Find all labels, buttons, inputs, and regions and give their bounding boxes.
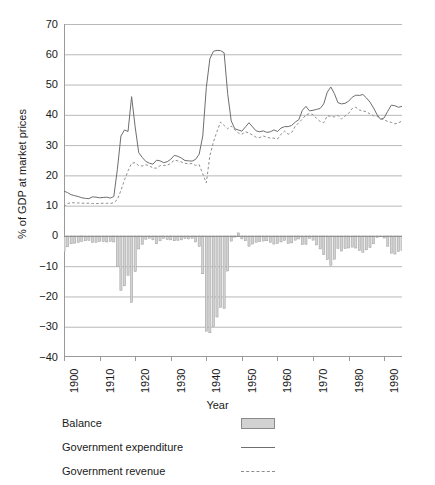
y-axis-tick: 20 [46, 170, 58, 181]
balance-bar [348, 236, 350, 248]
plot-area [64, 24, 402, 357]
balance-bar [326, 236, 328, 260]
balance-bar [66, 236, 68, 247]
balance-bar [155, 236, 157, 244]
y-axis-tick: 10 [46, 200, 58, 211]
y-axis-tick: 50 [46, 79, 58, 90]
x-axis-tick: 1900 [69, 369, 80, 393]
balance-bar [333, 236, 335, 259]
x-axis-tick: 1980 [354, 369, 365, 393]
balance-bar [64, 236, 65, 252]
balance-bar [219, 236, 221, 307]
balance-bar [401, 236, 402, 251]
balance-bar [74, 236, 76, 243]
balance-bar [301, 236, 303, 245]
balance-bar [276, 236, 278, 244]
balance-bar [134, 236, 136, 272]
y-axis-tick: 30 [46, 140, 58, 151]
expenditure-line [64, 50, 402, 198]
legend-item-key [240, 417, 276, 430]
x-axis-tick-mark [100, 357, 101, 361]
balance-bar [319, 236, 321, 249]
balance-bar [340, 236, 342, 251]
y-axis-tick: −10 [39, 261, 58, 272]
legend-item-key [240, 465, 276, 478]
x-axis-tick-mark [64, 357, 65, 361]
chart-figure: 706050403020100−10−20−30−40 % of GDP at … [0, 0, 435, 485]
y-axis-title: % of GDP at market prices [16, 84, 28, 264]
legend-item-key [240, 441, 276, 454]
balance-bar [223, 236, 225, 309]
balance-bar [131, 236, 133, 303]
balance-bar [116, 236, 118, 266]
balance-bar [316, 236, 318, 245]
balance-bar [394, 236, 396, 254]
balance-bar [127, 236, 129, 275]
y-axis-tick-labels: 706050403020100−10−20−30−40 [0, 0, 58, 485]
balance-bar [390, 236, 392, 253]
x-axis-tick: 1990 [389, 369, 400, 393]
x-axis-tick: 1960 [282, 369, 293, 393]
balance-bar [323, 236, 325, 255]
x-axis-tick-mark [206, 357, 207, 361]
chart-legend: BalanceGovernment expenditureGovernment … [62, 411, 392, 483]
balance-bar [70, 236, 72, 244]
x-axis-tick: 1910 [105, 369, 116, 393]
balance-bar [358, 236, 360, 251]
balance-bar [273, 236, 275, 244]
balance-bars-group [64, 233, 402, 333]
balance-bar [123, 236, 125, 286]
balance-bar [216, 236, 218, 317]
balance-bar [198, 236, 200, 247]
y-axis-tick: 60 [46, 49, 58, 60]
balance-bar [365, 236, 367, 250]
balance-bar [287, 236, 289, 244]
balance-bar [251, 236, 253, 244]
legend-dashed-line-icon [241, 471, 275, 472]
x-axis-tick-mark [242, 357, 243, 361]
x-axis-title: Year [0, 399, 435, 411]
balance-bar [344, 236, 346, 249]
balance-bar [397, 236, 399, 252]
x-axis-tick-mark [277, 357, 278, 361]
x-axis-tick-mark [349, 357, 350, 361]
x-axis-tick-mark [135, 357, 136, 361]
balance-bar [387, 236, 389, 246]
balance-bar [237, 233, 239, 236]
x-axis-tick: 1970 [318, 369, 329, 393]
x-axis-tick-mark [171, 357, 172, 361]
balance-bar [372, 236, 374, 244]
balance-bar [141, 236, 143, 244]
y-axis-tick: −30 [39, 321, 58, 332]
chart-canvas [64, 24, 402, 357]
y-axis-tick: −20 [39, 291, 58, 302]
legend-item-label: Government expenditure [62, 441, 212, 453]
balance-bar [227, 236, 229, 271]
balance-bar [209, 236, 211, 333]
balance-bar [291, 236, 293, 243]
balance-bar [305, 236, 307, 244]
balance-bar [355, 236, 357, 248]
x-axis-tick-mark [313, 357, 314, 361]
balance-bar [248, 236, 250, 246]
balance-bar [120, 236, 122, 290]
y-axis-tick: 40 [46, 109, 58, 120]
x-axis-tick-mark [384, 357, 385, 361]
x-axis-tick: 1930 [176, 369, 187, 393]
balance-bar [362, 236, 364, 252]
balance-bar [212, 236, 214, 327]
legend-solid-line-icon [241, 447, 275, 448]
balance-bar [138, 236, 140, 249]
balance-bar [351, 236, 353, 247]
legend-item-label: Balance [62, 417, 212, 429]
legend-swatch-icon [241, 418, 275, 429]
x-axis-tick: 1950 [247, 369, 258, 393]
balance-bar [369, 236, 371, 248]
y-axis-tick: 70 [46, 19, 58, 30]
balance-bar [202, 236, 204, 274]
legend-item: Balance [62, 411, 392, 435]
legend-item: Government revenue [62, 459, 392, 483]
legend-item: Government expenditure [62, 435, 392, 459]
x-axis-tick: 1940 [211, 369, 222, 393]
y-axis-tick: 0 [52, 230, 58, 241]
